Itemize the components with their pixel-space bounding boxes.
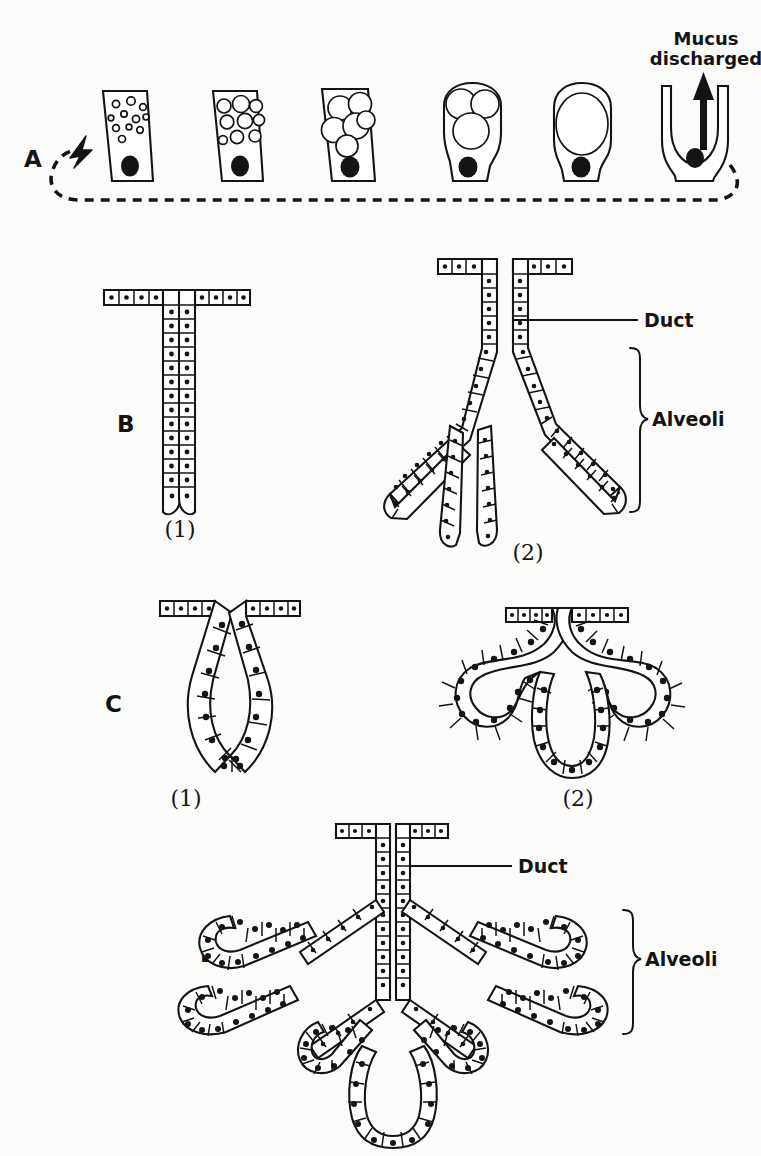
compound-tubular-gland: Duct Alveoli bbox=[384, 259, 724, 546]
panel-letter-b: B bbox=[117, 411, 135, 437]
goblet-stage-4 bbox=[444, 83, 501, 181]
stage-5-nucleus bbox=[572, 157, 591, 178]
panel-letter-a: A bbox=[24, 146, 42, 172]
goblet-stage-2 bbox=[213, 91, 265, 181]
stage-4-nucleus bbox=[459, 157, 478, 178]
b2-duct-label: Duct bbox=[644, 309, 694, 331]
simple-tubular-gland bbox=[104, 290, 250, 514]
c2-right-lobe bbox=[557, 608, 685, 741]
cycle-dashed-arrow bbox=[51, 136, 737, 200]
d-alveolus-terminal-bottom bbox=[348, 1046, 437, 1148]
d-alveoli-annotation: Alveoli bbox=[623, 910, 718, 1034]
cycle-arrowhead bbox=[70, 136, 92, 168]
stage-5-vacuole bbox=[556, 93, 608, 155]
stage-2-vacuoles bbox=[217, 96, 265, 145]
panel-c-group: C (1) (2) bbox=[105, 601, 685, 811]
mucus-discharged-line2: discharged bbox=[650, 48, 761, 69]
panel-b2-caption: (2) bbox=[512, 540, 543, 565]
b2-duct-annotation: Duct bbox=[513, 309, 694, 331]
panel-c1-caption: (1) bbox=[170, 786, 201, 811]
panel-b-group: B (1) (2) bbox=[104, 259, 725, 565]
discharge-arrow bbox=[693, 72, 714, 150]
panel-letter-c: C bbox=[105, 691, 122, 717]
c2-surface-right bbox=[572, 608, 628, 622]
c1-left-limb bbox=[188, 601, 232, 772]
c1-surface-left bbox=[160, 601, 215, 616]
branched-alveolar-gland bbox=[439, 608, 685, 778]
c1-surface-right bbox=[246, 601, 300, 616]
b1-tube-right-wall bbox=[179, 290, 195, 514]
c2-surface-left bbox=[506, 608, 552, 622]
goblet-stage-3 bbox=[322, 89, 376, 181]
goblet-stage-1 bbox=[103, 91, 153, 181]
stage-2-nucleus bbox=[231, 156, 249, 177]
d-alveoli-cluster-upper-right bbox=[470, 916, 587, 970]
d-alveoli-cluster-mid-left bbox=[178, 986, 298, 1036]
d-duct-label: Duct bbox=[518, 855, 568, 877]
panel-c2-caption: (2) bbox=[562, 786, 593, 811]
simple-alveolar-gland bbox=[160, 601, 300, 772]
b1-surface-right bbox=[195, 290, 250, 305]
b2-alveolus-mid-right bbox=[477, 426, 497, 546]
stage-6-nucleus bbox=[686, 148, 704, 168]
b1-surface-left bbox=[104, 290, 163, 305]
histology-figure: A Mucus discharged bbox=[0, 0, 761, 1156]
goblet-stage-6-discharged bbox=[662, 72, 728, 181]
mucus-discharged-line1: Mucus bbox=[674, 28, 739, 49]
d-alveoli-cluster-upper-left bbox=[199, 916, 316, 970]
c2-center-lobe bbox=[532, 672, 610, 778]
b1-tube-left-wall bbox=[163, 290, 180, 514]
d-alveoli-cluster-mid-right bbox=[488, 986, 608, 1036]
b2-alveoli-annotation: Alveoli bbox=[630, 348, 725, 512]
b2-alveolus-far-right bbox=[542, 438, 626, 514]
b2-surface-left bbox=[438, 259, 482, 274]
c1-right-limb bbox=[229, 601, 272, 772]
stage-3-nucleus bbox=[341, 157, 360, 178]
panel-d-group: D bbox=[178, 824, 717, 1148]
d-alveoli-label: Alveoli bbox=[645, 948, 718, 970]
stage-1-nucleus bbox=[121, 156, 139, 177]
panel-a-group: A Mucus discharged bbox=[24, 28, 761, 200]
b2-alveoli-label: Alveoli bbox=[652, 408, 725, 430]
d-duct-annotation: Duct bbox=[410, 855, 568, 877]
d-surface-left bbox=[336, 824, 376, 838]
panel-b1-caption: (1) bbox=[164, 517, 195, 542]
goblet-stage-5 bbox=[554, 83, 611, 181]
